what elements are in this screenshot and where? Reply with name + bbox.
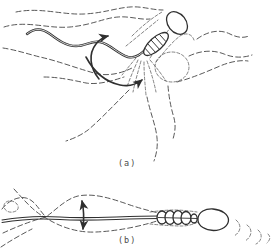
streamline bbox=[147, 97, 157, 161]
envelope-curve bbox=[14, 189, 163, 232]
streamline bbox=[3, 48, 132, 75]
streamline bbox=[122, 58, 136, 75]
panel-a: (a) bbox=[3, 7, 252, 168]
recirculation-loop bbox=[155, 52, 189, 82]
streamline bbox=[132, 12, 162, 36]
sperm-flow-figure: (a) bbox=[0, 0, 273, 250]
bow-arc bbox=[245, 225, 251, 241]
head-outline bbox=[198, 209, 229, 231]
flagellum-a bbox=[27, 30, 147, 58]
streamlines-sink-fan bbox=[122, 58, 166, 95]
streamline bbox=[133, 61, 141, 92]
streamlines-lower-left bbox=[3, 48, 132, 84]
midpiece-outline bbox=[140, 29, 172, 59]
sperm-head-b bbox=[198, 209, 229, 231]
flagellum-highlight bbox=[27, 30, 147, 58]
circulation-arrows bbox=[86, 36, 142, 86]
tail-line-lower bbox=[2, 219, 160, 223]
streamlines-upper bbox=[4, 7, 249, 39]
panel-b-label: (b) bbox=[118, 235, 136, 245]
figure-canvas: (a) bbox=[0, 0, 273, 250]
streamline bbox=[168, 86, 175, 139]
bow-arc bbox=[256, 230, 261, 244]
bow-arc bbox=[267, 234, 270, 243]
amplitude-arrow bbox=[82, 201, 84, 229]
streamlines-lower bbox=[66, 86, 175, 161]
midpiece-a bbox=[140, 29, 172, 59]
streamline bbox=[4, 17, 150, 27]
bow-wave-arcs bbox=[234, 220, 270, 244]
panel-a-label: (a) bbox=[118, 158, 136, 168]
streamline bbox=[177, 61, 248, 82]
streamline bbox=[144, 62, 146, 95]
streamline bbox=[197, 31, 249, 39]
streamline bbox=[189, 51, 252, 57]
envelope-loop bbox=[4, 201, 18, 212]
midpiece-b bbox=[157, 211, 197, 225]
streamline bbox=[16, 7, 163, 14]
streamline bbox=[66, 90, 129, 141]
bow-arc bbox=[234, 220, 240, 236]
panel-b: (b) bbox=[1, 189, 270, 247]
flagellum-b bbox=[2, 216, 160, 223]
streamlines-right bbox=[155, 51, 252, 82]
